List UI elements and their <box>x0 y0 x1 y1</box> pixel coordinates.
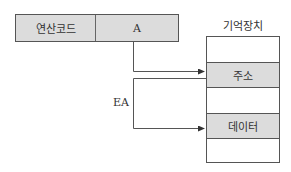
connector-arrows <box>0 0 291 172</box>
arrow-ea-to-data <box>134 79 207 129</box>
arrow-a-to-address <box>134 42 205 72</box>
